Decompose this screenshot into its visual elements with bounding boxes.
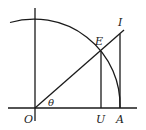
label-I: I bbox=[117, 16, 123, 29]
trig-diagram: O U A E I θ bbox=[0, 0, 146, 130]
diagram-canvas: O U A E I θ bbox=[0, 0, 146, 130]
label-U: U bbox=[96, 113, 106, 126]
unit-circle-arc bbox=[10, 19, 120, 108]
label-O: O bbox=[24, 113, 33, 126]
label-E: E bbox=[94, 35, 103, 48]
label-theta: θ bbox=[48, 97, 54, 108]
label-A: A bbox=[115, 113, 124, 126]
